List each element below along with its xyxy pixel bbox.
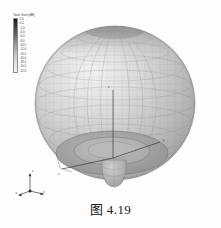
colorbar-title: Total Gain [dBi] — [13, 13, 47, 17]
figure-caption: 图 4.19 — [0, 200, 221, 220]
svg-text:x: x — [58, 172, 60, 176]
colorbar-tick: 0.0 — [20, 22, 27, 25]
axis-triad-indicator[interactable]: z x y — [15, 170, 49, 198]
colorbar-tick: -6.0 — [20, 35, 27, 38]
colorbar-body: 2.0 0.0 -2.0 -4.0 -6.0 -8.0 -10.0 -12.0 … — [13, 18, 47, 73]
colorbar-tick-labels: 2.0 0.0 -2.0 -4.0 -6.0 -8.0 -10.0 -12.0 … — [18, 18, 27, 73]
figure-container: z x y Total Gain [dBi] 2.0 0.0 -2.0 -4.0… — [0, 0, 221, 228]
colorbar-tick: -12.0 — [20, 48, 27, 51]
triad-y-label: y — [43, 191, 44, 194]
triad-z-label: z — [32, 170, 33, 173]
colorbar-legend[interactable]: Total Gain [dBi] 2.0 0.0 -2.0 -4.0 -6.0 … — [13, 13, 47, 73]
radiation-pattern-plot[interactable]: z x y Total Gain [dBi] 2.0 0.0 -2.0 -4.0… — [0, 0, 221, 200]
colorbar-tick: -22.0 — [20, 70, 27, 73]
axis-triad-glyph — [15, 170, 49, 198]
back-lobe — [102, 160, 126, 187]
triad-x-label: x — [16, 192, 17, 195]
